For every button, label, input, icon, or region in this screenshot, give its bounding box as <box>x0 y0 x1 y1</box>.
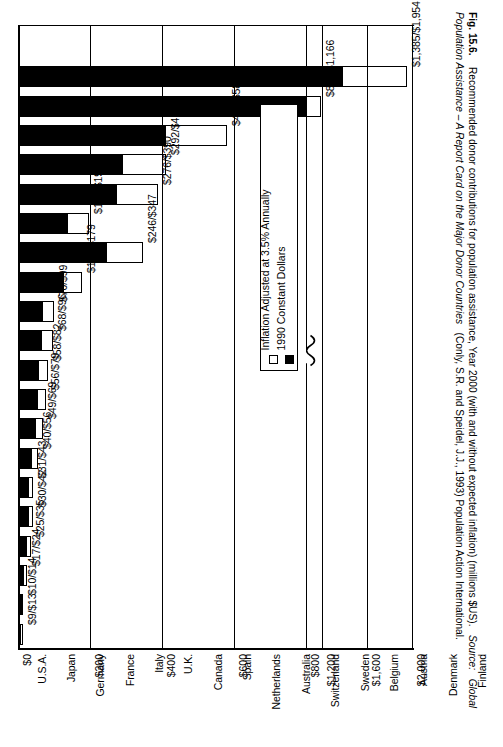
bar-segment-constant-dollars <box>18 389 38 410</box>
plot-top-rule <box>18 25 414 26</box>
value-tick-0: $0 <box>22 654 33 666</box>
bar-value-label: $139/$197 <box>93 165 104 214</box>
gridline-2000 <box>412 25 413 648</box>
figure-caption: Fig. 15.6. Recommended donor contributio… <box>433 12 479 736</box>
gridline-0 <box>18 25 20 650</box>
bar-value-label: $826/$1,166 <box>325 39 336 96</box>
bar-australia[interactable]: $68/$96 <box>18 330 414 351</box>
bar-ireland[interactable]: $9/$13 <box>18 624 414 645</box>
bar-value-label: $127/$179 <box>86 224 97 273</box>
bar-segment-constant-dollars <box>18 301 43 322</box>
chart-plot-area: $1,385/$1,954$826/$1,166$412/$581$292/$4… <box>18 61 414 648</box>
bar-switzerland[interactable]: $58/$82 <box>18 360 414 381</box>
value-tick-1200: $1,200 <box>326 654 337 686</box>
bar-portugal[interactable]: $17/$24 <box>18 565 414 586</box>
gridline-400 <box>162 25 163 648</box>
value-tick-800: $800 <box>310 654 321 677</box>
legend-label: Inflation Adjusted at 3.5% Annually <box>260 189 271 350</box>
bar-segment-constant-dollars <box>18 418 36 439</box>
bar-canada[interactable]: $246/$347 <box>18 242 414 263</box>
legend-swatch-icon <box>285 355 294 364</box>
legend-swatch-icon <box>269 355 278 364</box>
gridline-1200 <box>322 25 323 648</box>
value-tick-2000: $2,000 <box>416 654 427 686</box>
bar-norway[interactable]: $25/$35 <box>18 536 414 557</box>
bar-group: $1,385/$1,954$826/$1,166$412/$581$292/$4… <box>18 61 414 648</box>
bar-value-label: $412/$581 <box>231 77 242 126</box>
bar-italy[interactable]: $276/$390 <box>18 184 414 205</box>
value-tick-200: $200 <box>94 654 105 677</box>
bar-value-label: $9/$13 <box>27 593 38 625</box>
bar-belgium[interactable]: $49/$69 <box>18 418 414 439</box>
caption-source-rest: (Conly, S.R. and Speidel, J.J., 1993) Po… <box>454 333 465 640</box>
bar-new-zealand[interactable]: $10/$14 <box>18 594 414 615</box>
bar-netherlands[interactable]: $70/$99 <box>18 301 414 322</box>
bar-segment-constant-dollars <box>18 66 343 87</box>
value-tick-600: $600 <box>238 654 249 677</box>
bar-japan[interactable]: $826/$1,166 <box>18 96 414 117</box>
chart-legend: Inflation Adjusted at 3.5% Annually1990 … <box>260 104 298 371</box>
bar-austria[interactable]: $40/$56 <box>18 448 414 469</box>
value-tick-400: $400 <box>166 654 177 677</box>
value-axis-ticks: $0$200$400$600$800$1,200$1,600$2,000 <box>18 648 418 728</box>
figure-container: $1,385/$1,954$826/$1,166$412/$581$292/$4… <box>0 0 503 747</box>
bar-value-label: $10/$14 <box>27 558 38 595</box>
figure-number: Fig. 15.6. <box>467 12 478 56</box>
bar-germany[interactable]: $412/$581 <box>18 125 414 146</box>
bar-u-s-a[interactable]: $1,385/$1,954 <box>18 66 414 87</box>
bar-segment-constant-dollars <box>18 360 39 381</box>
bar-segment-constant-dollars <box>18 213 68 234</box>
caption-source-prefix: Source: <box>467 635 478 670</box>
bar-value-label: $276/$390 <box>162 136 173 185</box>
bar-sweden[interactable]: $56/$79 <box>18 389 414 410</box>
caption-text: Recommended donor contributions for popu… <box>467 67 478 627</box>
bar-finland[interactable]: $30/$42 <box>18 506 414 527</box>
bar-spain[interactable]: $127/$179 <box>18 272 414 293</box>
value-tick-1600: $1,600 <box>371 654 382 686</box>
bar-u-k[interactable]: $139/$197 <box>18 213 414 234</box>
gridline-200 <box>90 25 91 648</box>
gridline-600 <box>234 25 235 648</box>
bar-segment-constant-dollars <box>18 154 123 175</box>
gridline-800 <box>306 25 307 648</box>
bar-segment-constant-dollars <box>18 125 166 146</box>
bar-denmark[interactable]: $31/$43 <box>18 477 414 498</box>
bar-segment-constant-dollars <box>18 448 32 469</box>
bar-france[interactable]: $292/$412 <box>18 154 414 175</box>
bar-segment-constant-dollars <box>18 330 42 351</box>
bar-value-label: $246/$347 <box>147 195 158 244</box>
legend-label: 1990 Constant Dollars <box>276 246 287 350</box>
gridline-1600 <box>367 25 368 648</box>
